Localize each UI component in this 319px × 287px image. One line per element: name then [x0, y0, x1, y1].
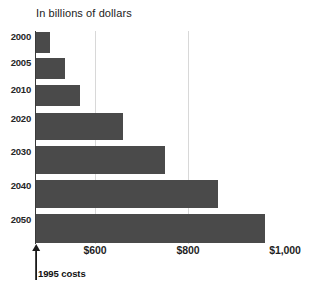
- ytick-label-2040: 2040: [11, 180, 31, 191]
- bar-2010[interactable]: [36, 85, 80, 106]
- ytick-label-2000: 2000: [11, 31, 31, 42]
- bar-row[interactable]: [36, 146, 319, 174]
- ytick-label-2010: 2010: [11, 84, 31, 95]
- ytick-label-2005: 2005: [11, 57, 31, 68]
- bar-2050[interactable]: [36, 214, 265, 243]
- bar-row[interactable]: [36, 32, 319, 53]
- annotation-label: 1995 costs: [38, 268, 86, 279]
- ytick-label-2050: 2050: [11, 214, 31, 225]
- annotation-1995-costs: 1995 costs: [31, 244, 151, 284]
- xtick-label-1000: $1,000: [269, 244, 301, 256]
- bar-2030[interactable]: [36, 146, 165, 174]
- bar-row[interactable]: [36, 113, 319, 140]
- chart-container: In billions of dollars 2000 2005 2010: [0, 0, 319, 287]
- bar-2020[interactable]: [36, 113, 123, 140]
- bar-2000[interactable]: [36, 32, 50, 53]
- bar-row[interactable]: [36, 85, 319, 106]
- ytick-label-2020: 2020: [11, 113, 31, 124]
- bar-row[interactable]: [36, 58, 319, 79]
- ytick-label-2030: 2030: [11, 146, 31, 157]
- xtick-label-800: $800: [177, 244, 200, 256]
- bar-row[interactable]: [36, 214, 319, 243]
- y-axis-tick-labels: 2000 2005 2010 2020 2030 2040 2050: [0, 0, 31, 287]
- bar-2040[interactable]: [36, 180, 218, 208]
- bar-row[interactable]: [36, 180, 319, 208]
- bar-2005[interactable]: [36, 58, 65, 79]
